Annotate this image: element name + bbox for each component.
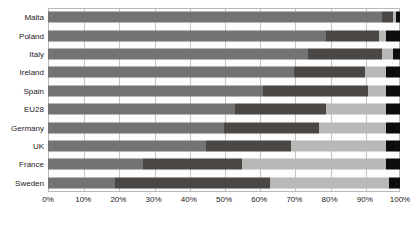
category-label-malta: Malta <box>0 13 44 22</box>
bar-segment-2 <box>294 67 364 78</box>
stacked-bar-sweden <box>48 177 400 188</box>
bar-row: Italy <box>0 45 416 63</box>
bar-segment-1 <box>48 12 382 23</box>
bar-segment-3 <box>382 48 393 59</box>
bar-segment-4 <box>386 30 400 41</box>
x-tick-label: 40% <box>181 195 197 205</box>
bar-segment-3 <box>242 159 386 170</box>
category-label-ireland: Ireland <box>0 68 44 77</box>
category-label-poland: Poland <box>0 31 44 40</box>
bar-segment-3 <box>291 140 386 151</box>
bar-row: Ireland <box>0 63 416 81</box>
category-label-uk: UK <box>0 141 44 150</box>
category-label-france: France <box>0 160 44 169</box>
bar-segment-3 <box>326 104 386 115</box>
bar-rows: MaltaPolandItalyIrelandSpainEU28GermanyU… <box>0 8 416 192</box>
bar-segment-2 <box>263 85 369 96</box>
category-label-sweden: Sweden <box>0 178 44 187</box>
stacked-bar-poland <box>48 30 400 41</box>
bar-segment-2 <box>224 122 319 133</box>
bar-segment-1 <box>48 30 326 41</box>
bar-segment-4 <box>393 48 400 59</box>
x-tick-label: 0% <box>42 195 54 205</box>
category-label-eu28: EU28 <box>0 105 44 114</box>
bar-segment-1 <box>48 104 235 115</box>
stacked-bar-chart: MaltaPolandItalyIrelandSpainEU28GermanyU… <box>0 0 416 225</box>
bar-segment-2 <box>382 12 393 23</box>
bar-segment-3 <box>365 67 386 78</box>
bar-segment-1 <box>48 177 115 188</box>
bar-segment-4 <box>386 85 400 96</box>
bar-row: Spain <box>0 82 416 100</box>
stacked-bar-uk <box>48 140 400 151</box>
stacked-bar-spain <box>48 85 400 96</box>
bar-segment-3 <box>270 177 390 188</box>
bar-segment-3 <box>368 85 386 96</box>
stacked-bar-france <box>48 159 400 170</box>
bar-segment-2 <box>143 159 242 170</box>
bar-segment-2 <box>115 177 270 188</box>
stacked-bar-italy <box>48 48 400 59</box>
bar-row: Poland <box>0 26 416 44</box>
bar-row: UK <box>0 137 416 155</box>
bar-segment-1 <box>48 159 143 170</box>
bar-row: Malta <box>0 8 416 26</box>
bar-segment-4 <box>386 140 400 151</box>
bar-segment-1 <box>48 140 206 151</box>
bar-segment-1 <box>48 48 308 59</box>
bar-segment-1 <box>48 122 224 133</box>
bar-segment-2 <box>326 30 379 41</box>
bar-segment-1 <box>48 85 263 96</box>
bar-segment-3 <box>379 30 386 41</box>
category-label-germany: Germany <box>0 123 44 132</box>
bar-segment-2 <box>235 104 327 115</box>
category-label-italy: Italy <box>0 49 44 58</box>
bar-segment-4 <box>386 159 400 170</box>
bar-segment-4 <box>386 104 400 115</box>
stacked-bar-eu28 <box>48 104 400 115</box>
bar-row: France <box>0 155 416 173</box>
bar-row: Sweden <box>0 174 416 192</box>
x-tick-label: 80% <box>322 195 338 205</box>
x-tick-label: 50% <box>216 195 232 205</box>
bar-row: Germany <box>0 118 416 136</box>
x-tick-label: 90% <box>357 195 373 205</box>
x-tick-label: 10% <box>75 195 91 205</box>
bar-segment-3 <box>319 122 386 133</box>
bar-segment-4 <box>386 67 400 78</box>
stacked-bar-ireland <box>48 67 400 78</box>
stacked-bar-malta <box>48 12 400 23</box>
bar-segment-4 <box>396 12 400 23</box>
bar-segment-4 <box>389 177 400 188</box>
bar-segment-4 <box>386 122 400 133</box>
x-axis: 0%10%20%30%40%50%60%70%80%90%100% <box>48 195 400 209</box>
x-tick-label: 20% <box>110 195 126 205</box>
stacked-bar-germany <box>48 122 400 133</box>
x-tick-label: 100% <box>390 195 410 205</box>
bar-segment-1 <box>48 67 294 78</box>
x-tick-label: 70% <box>286 195 302 205</box>
category-label-spain: Spain <box>0 86 44 95</box>
bar-segment-2 <box>206 140 290 151</box>
x-tick-label: 60% <box>251 195 267 205</box>
bar-segment-2 <box>308 48 382 59</box>
x-tick-label: 30% <box>146 195 162 205</box>
bar-row: EU28 <box>0 100 416 118</box>
